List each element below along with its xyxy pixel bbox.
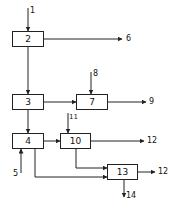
label-output-6: 6 — [126, 35, 131, 43]
label-input-11: 11 — [69, 113, 78, 121]
label-output-12a: 12 — [147, 137, 157, 145]
label-input-1: 1 — [30, 7, 35, 15]
label-output-14: 14 — [126, 192, 136, 200]
label-input-8: 8 — [93, 70, 98, 78]
label-output-12b: 12 — [158, 168, 168, 176]
block-3: 3 — [12, 94, 44, 110]
block-13: 13 — [107, 164, 138, 180]
block-10: 10 — [60, 133, 91, 149]
block-4: 4 — [12, 133, 44, 149]
block-7: 7 — [76, 94, 108, 110]
label-output-9: 9 — [149, 98, 154, 106]
block-2: 2 — [12, 31, 44, 47]
label-input-5: 5 — [13, 170, 18, 178]
